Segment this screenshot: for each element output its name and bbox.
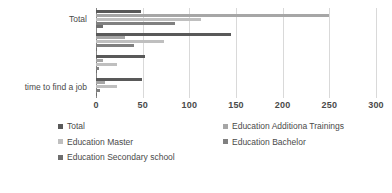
x-axis-tick-200: 200 — [275, 100, 291, 110]
bar-row — [96, 36, 376, 39]
x-axis-ticks: 050100150200250300 — [96, 100, 376, 114]
legend-item-0[interactable]: Total — [58, 122, 223, 131]
legend-label: Education Master — [67, 138, 133, 147]
bar-0-3 — [96, 78, 142, 81]
bar-3-2 — [96, 67, 99, 70]
bar-2-0 — [96, 18, 201, 21]
bar-row — [96, 40, 376, 43]
bar-4-3 — [96, 93, 97, 96]
legend-label: Education Secondary school — [67, 153, 175, 162]
bar-group-0 — [96, 8, 376, 31]
bar-row — [96, 70, 376, 73]
bar-4-1 — [96, 48, 97, 51]
y-axis-label-time-to-find-a-job: time to find a job — [0, 76, 92, 99]
bar-0-2 — [96, 55, 145, 58]
x-axis-tick-150: 150 — [228, 100, 244, 110]
bar-3-1 — [96, 44, 134, 47]
bar-1-2 — [96, 59, 103, 62]
bar-row — [96, 22, 376, 25]
bar-2-2 — [96, 63, 117, 66]
x-axis-tick-50: 50 — [137, 100, 147, 110]
bar-row — [96, 14, 376, 17]
bar-row — [96, 67, 376, 70]
bar-row — [96, 89, 376, 92]
bar-row — [96, 48, 376, 51]
legend-label: Education Bachelor — [232, 138, 306, 147]
x-axis-tick-100: 100 — [182, 100, 198, 110]
bar-row — [96, 18, 376, 21]
bar-row — [96, 25, 376, 28]
legend-label: Education Additiona Trainings — [232, 122, 344, 131]
bar-groups — [96, 8, 376, 98]
bar-row — [96, 59, 376, 62]
y-axis-label-blank-1 — [0, 31, 92, 54]
legend-item-4[interactable]: Education Secondary school — [58, 153, 223, 162]
bar-group-3 — [96, 76, 376, 99]
bar-row — [96, 63, 376, 66]
legend-swatch-icon — [58, 155, 63, 160]
bar-group-2 — [96, 53, 376, 76]
bar-0-1 — [96, 33, 231, 36]
y-axis-label-total: Total — [0, 8, 92, 31]
bar-row — [96, 33, 376, 36]
bar-3-0 — [96, 22, 175, 25]
legend-swatch-icon — [223, 124, 228, 129]
legend-swatch-icon — [58, 124, 63, 129]
legend-item-2[interactable]: Education Master — [58, 138, 223, 147]
bar-row — [96, 10, 376, 13]
bar-2-1 — [96, 40, 164, 43]
bar-4-2 — [96, 70, 97, 73]
legend-swatch-icon — [223, 139, 228, 144]
bar-group-1 — [96, 31, 376, 54]
legend-swatch-icon — [58, 139, 63, 144]
bar-3-3 — [96, 89, 100, 92]
bar-row — [96, 93, 376, 96]
bar-1-0 — [96, 14, 329, 17]
plot-area — [96, 8, 376, 98]
bar-row — [96, 55, 376, 58]
legend-item-1[interactable]: Education Additiona Trainings — [223, 122, 388, 131]
bar-2-3 — [96, 85, 117, 88]
legend: TotalEducation Additiona TrainingsEducat… — [58, 122, 388, 169]
bar-row — [96, 44, 376, 47]
legend-item-3[interactable]: Education Bachelor — [223, 138, 388, 147]
x-axis-tick-0: 0 — [93, 100, 98, 110]
y-axis-label-blank-2 — [0, 53, 92, 76]
bar-row — [96, 78, 376, 81]
y-axis-labels: Total time to find a job — [0, 8, 92, 98]
bar-1-3 — [96, 81, 105, 84]
gridline-300 — [376, 8, 377, 98]
legend-label: Total — [67, 122, 85, 131]
bar-4-0 — [96, 25, 103, 28]
bar-chart: Total time to find a job 050100150200250… — [0, 0, 392, 193]
x-axis-tick-250: 250 — [322, 100, 338, 110]
bar-1-1 — [96, 36, 125, 39]
bar-row — [96, 85, 376, 88]
bar-0-0 — [96, 10, 141, 13]
bar-row — [96, 81, 376, 84]
x-axis-tick-300: 300 — [368, 100, 384, 110]
